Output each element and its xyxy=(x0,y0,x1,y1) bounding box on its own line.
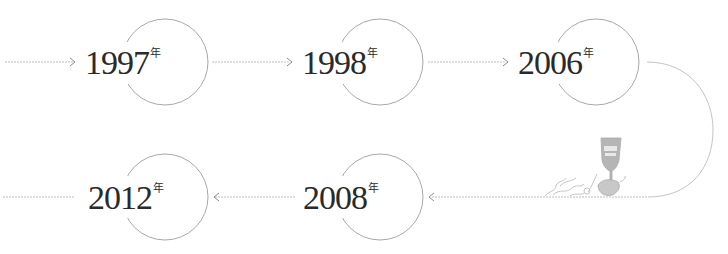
timeline-year-2012: 2012年 xyxy=(88,181,164,215)
timeline-year-1998: 1998年 xyxy=(302,46,378,80)
year-suffix: 年 xyxy=(367,47,378,60)
curved-connector xyxy=(647,62,713,197)
timeline-year-1997: 1997年 xyxy=(85,46,161,80)
year-number: 2006 xyxy=(518,44,582,81)
year-number: 2008 xyxy=(303,179,367,216)
wine-glass-icon xyxy=(598,138,625,196)
year-number: 1998 xyxy=(302,44,366,81)
year-suffix: 年 xyxy=(153,182,164,195)
timeline-year-2006: 2006年 xyxy=(518,46,594,80)
year-number: 1997 xyxy=(85,44,149,81)
year-number: 2012 xyxy=(88,179,152,216)
timeline-year-2008: 2008年 xyxy=(303,181,379,215)
vine-decoration-icon xyxy=(545,174,597,196)
year-suffix: 年 xyxy=(150,47,161,60)
year-suffix: 年 xyxy=(583,47,594,60)
year-suffix: 年 xyxy=(368,182,379,195)
